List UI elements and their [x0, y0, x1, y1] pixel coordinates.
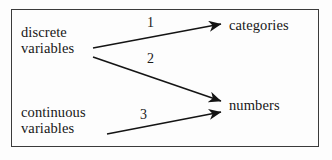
diagram-figure: discrete variables continuous variables … — [0, 0, 332, 160]
edge-label-3: 3 — [140, 108, 147, 122]
node-label-continuous-variables: continuous variables — [21, 105, 86, 136]
node-label-discrete-variables: discrete variables — [21, 25, 74, 56]
node-label-numbers: numbers — [229, 98, 280, 114]
node-label-categories: categories — [229, 18, 289, 34]
arrow-continuous-to-numbers — [107, 112, 221, 134]
arrow-discrete-to-categories — [93, 24, 221, 48]
arrow-discrete-to-numbers — [93, 57, 221, 101]
edge-label-1: 1 — [147, 16, 154, 30]
edge-label-2: 2 — [147, 52, 154, 66]
